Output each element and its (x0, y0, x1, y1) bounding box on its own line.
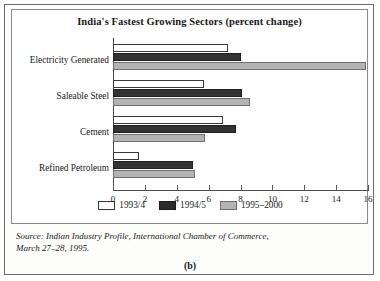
x-tick (336, 185, 337, 191)
legend-label: 1995–2000 (241, 200, 283, 210)
chart-panel: India's Fastest Growing Sectors (percent… (11, 9, 368, 224)
bar (113, 62, 366, 70)
white-swatch (98, 201, 115, 210)
bar (113, 170, 195, 178)
x-tick (272, 185, 273, 191)
source-line-2: March 27–28, 1995. (16, 242, 346, 254)
legend-label: 1993/4 (119, 200, 145, 210)
gray-swatch (220, 201, 237, 210)
bar (113, 161, 193, 169)
category-label: Refined Petroleum (39, 163, 109, 173)
x-tick (177, 185, 178, 191)
category-label: Saleable Steel (57, 91, 109, 101)
legend-item: 1993/4 (98, 200, 145, 210)
category-label: Electricity Generated (30, 55, 109, 65)
legend-label: 1994/5 (180, 200, 206, 210)
source-note: Source: Indian Industry Profile, Interna… (16, 230, 346, 254)
bar (113, 89, 242, 97)
bar (113, 134, 205, 142)
bar (113, 152, 139, 160)
category-label: Cement (80, 127, 109, 137)
bar (113, 53, 241, 61)
panel-caption: (b) (5, 260, 375, 271)
legend-item: 1995–2000 (220, 200, 283, 210)
bar (113, 44, 228, 52)
plot-area: 0246810121416 Electricity GeneratedSalea… (12, 36, 369, 194)
x-tick (113, 185, 114, 191)
chart-legend: 1993/41994/51995–2000 (12, 200, 369, 210)
bar (113, 98, 250, 106)
black-swatch (159, 201, 176, 210)
x-tick (368, 185, 369, 191)
source-line-1: Source: Indian Industry Profile, Interna… (16, 230, 346, 242)
x-tick (145, 185, 146, 191)
bar (113, 116, 223, 124)
figure-panel: India's Fastest Growing Sectors (percent… (4, 4, 374, 275)
bar (113, 125, 236, 133)
chart-title: India's Fastest Growing Sectors (percent… (12, 16, 367, 27)
x-tick (241, 185, 242, 191)
bar (113, 80, 204, 88)
legend-item: 1994/5 (159, 200, 206, 210)
x-tick (209, 185, 210, 191)
x-tick (304, 185, 305, 191)
